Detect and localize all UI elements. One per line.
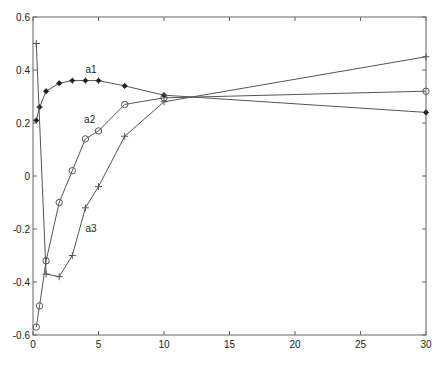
x-tick-label: 30 [420,339,432,350]
y-tick-label: 0 [24,171,30,182]
series-line [36,91,426,327]
plus-marker-icon [95,183,102,190]
star-marker-icon [82,78,88,84]
star-marker-icon [33,117,39,123]
y-tick-label: -0.2 [13,224,31,235]
y-tick-label: 0.4 [16,65,30,76]
series-a3 [33,40,430,280]
star-marker-icon [56,80,62,86]
y-tick-label: -0.6 [13,330,31,341]
x-tick-label: 0 [30,339,36,350]
star-marker-icon [96,78,102,84]
line-chart: 051015202530-0.6-0.4-0.200.20.40.6 a1a2a… [0,0,441,366]
star-marker-icon [423,109,429,115]
plus-marker-icon [33,40,40,47]
x-tick-label: 20 [289,339,301,350]
axis-ticks: 051015202530-0.6-0.4-0.200.20.40.6 [13,12,432,351]
star-marker-icon [69,78,75,84]
star-marker-icon [43,88,49,94]
x-tick-label: 15 [224,339,236,350]
star-marker-icon [122,83,128,89]
series-layer [33,40,430,330]
series-line [36,44,426,277]
plus-marker-icon [82,204,89,211]
x-tick-label: 25 [355,339,367,350]
x-tick-label: 5 [96,339,102,350]
y-tick-label: 0.6 [16,12,30,23]
plus-marker-icon [56,273,63,280]
series-label-a2: a2 [84,114,96,125]
plus-marker-icon [69,252,76,259]
plus-marker-icon [423,53,430,60]
y-tick-label: -0.4 [13,277,31,288]
series-label-a3: a3 [85,223,97,234]
y-tick-label: 0.2 [16,118,30,129]
x-tick-label: 10 [158,339,170,350]
series-label-a1: a1 [85,64,97,75]
